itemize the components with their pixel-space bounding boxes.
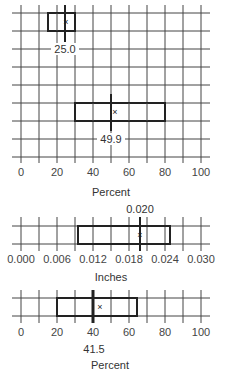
x-tick: 0: [18, 166, 24, 178]
x-tick: 20: [51, 166, 63, 178]
mean-marker-1: ×: [63, 17, 68, 27]
x-tick: 100: [192, 326, 210, 338]
mean-marker-2: ×: [112, 107, 117, 117]
x-tick: 20: [51, 326, 63, 338]
x-tick: 0.012: [79, 253, 107, 265]
box-4: ×: [57, 290, 137, 323]
x-axis-label: Inches: [95, 271, 128, 283]
x-tick: 80: [159, 166, 171, 178]
chart-2-x-axis: 0.000 0.006 0.012 0.018 0.024 0.030 Inch…: [7, 253, 215, 283]
x-tick: 0: [18, 326, 24, 338]
box-1: × 25.0: [48, 5, 79, 55]
x-axis-label: Percent: [91, 359, 129, 371]
x-tick: 60: [123, 166, 135, 178]
x-tick: 0.006: [43, 253, 71, 265]
median-label-4: 41.5: [83, 343, 104, 355]
chart-3-grid: [12, 290, 210, 323]
box-3: × 0.020: [78, 203, 170, 251]
mean-marker-4: ×: [97, 302, 102, 312]
median-label-1: 25.0: [54, 43, 75, 55]
box-2: × 49.9: [75, 94, 165, 145]
x-tick: 0.018: [115, 253, 143, 265]
chart-2-grid: [12, 217, 210, 251]
x-tick: 100: [192, 166, 210, 178]
median-label-2: 49.9: [100, 133, 121, 145]
chart-3-x-axis: 0 20 40 60 80 100 41.5 Percent: [18, 326, 210, 371]
x-tick: 40: [87, 326, 99, 338]
boxplot-figure: × 25.0 × 49.9 0 20 40 60 80 100 Percent: [0, 0, 225, 373]
median-label-3: 0.020: [126, 203, 154, 215]
x-tick: 40: [87, 166, 99, 178]
x-tick: 0.030: [187, 253, 215, 265]
x-tick: 60: [123, 326, 135, 338]
chart-1-x-axis: 0 20 40 60 80 100 Percent: [18, 166, 210, 198]
mean-marker-3: ×: [137, 230, 142, 240]
x-axis-label: Percent: [92, 186, 130, 198]
x-tick: 80: [159, 326, 171, 338]
x-tick: 0.024: [151, 253, 179, 265]
x-tick: 0.000: [7, 253, 35, 265]
